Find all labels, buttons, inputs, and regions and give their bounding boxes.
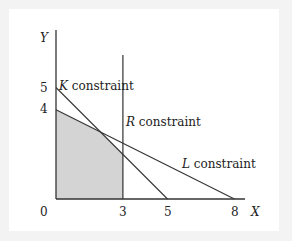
y-tick-4: 4 <box>40 102 48 116</box>
constraint-diagram: Y X 0 5 4 3 5 8 K constraint R constrain… <box>0 0 292 241</box>
feasible-region <box>56 110 123 199</box>
k-constraint-label: K constraint <box>58 79 134 93</box>
x-tick-5: 5 <box>164 205 172 219</box>
r-constraint-label: R constraint <box>125 115 201 129</box>
x-tick-3: 3 <box>119 205 127 219</box>
x-tick-8: 8 <box>231 205 239 219</box>
l-constraint-label: L constraint <box>181 157 256 171</box>
x-axis-label: X <box>250 205 260 219</box>
y-tick-5: 5 <box>40 81 48 95</box>
y-axis-label: Y <box>40 31 49 45</box>
origin-label: 0 <box>40 205 48 219</box>
